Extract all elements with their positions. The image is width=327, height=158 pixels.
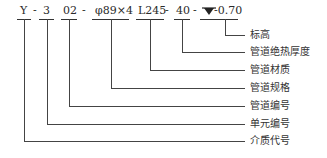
code-elevation: -0.70 xyxy=(214,5,242,17)
leader-unit-v xyxy=(47,19,48,124)
leader-spec-v xyxy=(111,19,112,88)
code-unit: 3 xyxy=(43,5,50,17)
separator: - xyxy=(33,5,37,17)
leader-pipe-no-h xyxy=(69,106,245,107)
leader-medium-v xyxy=(24,19,25,141)
code-spec: φ89×4 xyxy=(95,5,133,17)
label-medium: 介质代号 xyxy=(250,135,290,147)
leader-medium-h xyxy=(24,141,245,142)
label-pipe-no: 管道编号 xyxy=(250,100,290,112)
leader-material-v xyxy=(150,19,151,70)
code-pipe-no: 02 xyxy=(63,5,77,17)
code-material: L245 xyxy=(138,5,166,17)
code-medium: Y xyxy=(20,5,27,17)
leader-spec-h xyxy=(111,88,245,89)
leader-insulation-v xyxy=(182,19,183,52)
code-insulation: 40 xyxy=(176,5,190,17)
label-elevation: 标高 xyxy=(250,29,270,41)
separator: - xyxy=(82,5,86,17)
leader-material-h xyxy=(150,70,245,71)
label-spec: 管道规格 xyxy=(250,82,290,94)
label-unit: 单元编号 xyxy=(250,118,290,130)
leader-insulation-h xyxy=(182,52,245,53)
leader-elevation-v xyxy=(225,19,226,35)
label-material: 管道材质 xyxy=(250,64,290,76)
separator: - xyxy=(165,5,169,17)
leader-elevation-h xyxy=(225,35,245,36)
underline-elevation xyxy=(200,19,238,20)
label-insulation: 管道绝热厚度 xyxy=(250,46,310,58)
leader-pipe-no-v xyxy=(69,19,70,106)
leader-unit-h xyxy=(47,124,245,125)
separator: - xyxy=(193,5,197,17)
